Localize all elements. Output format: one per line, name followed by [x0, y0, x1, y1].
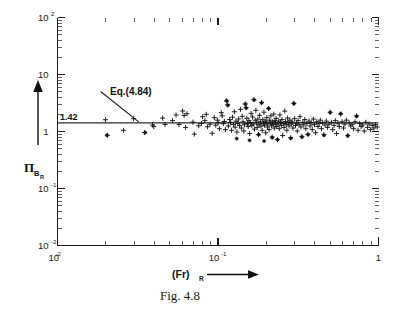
- axis-spines: [58, 18, 379, 246]
- data-point-plus: [160, 116, 165, 121]
- data-point-plus: [241, 129, 246, 134]
- data-point-star: [328, 110, 332, 114]
- x-tick-label-0-exponent: -2: [55, 250, 61, 257]
- y-axis-label-base: Π: [24, 160, 34, 175]
- data-point-plus: [205, 124, 210, 129]
- data-point-plus: [213, 123, 218, 128]
- data-point-plus: [229, 128, 234, 133]
- data-point-plus: [260, 128, 265, 133]
- y-tick-label-3: 10: [38, 183, 49, 194]
- data-point-plus: [221, 121, 226, 126]
- data-point-plus: [284, 128, 289, 133]
- data-point-star: [143, 130, 147, 134]
- figure-caption: Fig. 4.8: [160, 288, 200, 303]
- data-point-plus: [220, 113, 225, 118]
- x-axis-label-base: (Fr): [172, 268, 190, 280]
- tick-labels-group: 10210110-110-210-210-11: [38, 10, 381, 262]
- data-point-plus: [217, 126, 222, 131]
- data-point-plus: [204, 112, 209, 117]
- data-point-plus: [238, 107, 243, 112]
- data-point-star: [270, 136, 274, 140]
- data-point-plus: [223, 127, 228, 132]
- y-tick-label-1: 10: [38, 69, 49, 80]
- data-point-star: [257, 133, 261, 137]
- data-point-plus: [253, 108, 258, 113]
- x-tick-label-2: 1: [376, 252, 381, 263]
- data-point-plus: [356, 128, 361, 133]
- data-point-plus: [210, 131, 215, 136]
- data-point-plus: [174, 112, 179, 117]
- data-point-star: [252, 98, 256, 102]
- data-point-star: [262, 139, 266, 143]
- data-point-star: [235, 137, 239, 141]
- data-point-plus: [216, 120, 221, 125]
- data-point-star: [339, 112, 343, 116]
- data-point-plus: [234, 130, 239, 135]
- data-point-plus: [199, 121, 204, 126]
- data-point-plus: [103, 117, 108, 122]
- data-points-group: [103, 97, 380, 143]
- data-point-star: [322, 133, 326, 137]
- data-point-star: [300, 135, 304, 139]
- data-point-plus: [190, 120, 195, 125]
- data-point-star: [243, 102, 247, 106]
- data-point-plus: [215, 118, 220, 123]
- annotation-equation-label: Eq.(4.84): [110, 86, 152, 97]
- data-point-star: [289, 136, 293, 140]
- figure-container: 1.42 Eq.(4.84) 10210110-110-210-210-11 Π…: [0, 0, 410, 311]
- data-point-star: [226, 103, 230, 107]
- data-point-plus: [313, 130, 318, 135]
- data-point-plus: [227, 117, 232, 122]
- data-point-star: [275, 138, 279, 142]
- x-axis-title: (Fr) R: [172, 268, 259, 282]
- tick-marks-group: [58, 18, 379, 246]
- y-tick-label-0: 10: [38, 12, 49, 23]
- data-point-star: [355, 114, 359, 118]
- data-point-plus: [212, 115, 217, 120]
- data-point-plus: [230, 115, 235, 120]
- y-tick-label-0-exponent: 2: [51, 10, 55, 17]
- x-tick-label-1-exponent: -1: [221, 250, 227, 257]
- data-point-plus: [325, 125, 330, 130]
- data-point-plus: [282, 109, 287, 114]
- data-point-star: [225, 99, 229, 103]
- data-point-plus: [334, 131, 339, 136]
- data-point-star: [306, 133, 310, 137]
- data-point-star: [105, 133, 109, 137]
- data-point-plus: [274, 116, 279, 121]
- data-point-plus: [192, 132, 197, 137]
- data-point-star: [292, 102, 296, 106]
- data-point-plus: [261, 110, 266, 115]
- x-axis-arrow-icon: [248, 270, 259, 279]
- data-point-star: [346, 134, 350, 138]
- data-point-plus: [180, 108, 185, 113]
- data-point-plus: [219, 110, 224, 115]
- y-tick-label-4: 10: [38, 240, 49, 251]
- data-point-star: [244, 106, 248, 110]
- data-point-star: [260, 101, 264, 105]
- x-tick-label-1: 10: [209, 252, 220, 263]
- axes-group: [58, 18, 379, 246]
- data-point-plus: [353, 119, 358, 124]
- data-point-plus: [196, 123, 201, 128]
- y-tick-label-2: 1: [43, 126, 48, 137]
- y-tick-label-4-exponent: -2: [51, 238, 57, 245]
- data-point-plus: [295, 129, 300, 134]
- data-point-plus: [263, 130, 268, 135]
- data-point-plus: [280, 133, 285, 138]
- data-point-plus: [277, 112, 282, 117]
- reference-line-value-label: 1.42: [60, 112, 78, 122]
- x-axis-label-subscript: R: [199, 275, 204, 282]
- data-point-plus: [232, 109, 237, 114]
- y-axis-arrow-icon: [33, 80, 43, 92]
- annotation-group: Eq.(4.84): [101, 86, 152, 122]
- y-tick-label-3-exponent: -1: [51, 181, 57, 188]
- data-point-plus: [121, 128, 126, 133]
- y-axis-title: Π B R: [24, 80, 44, 180]
- y-axis-label-subsubscript: R: [40, 174, 44, 180]
- chart-canvas: 1.42 Eq.(4.84) 10210110-110-210-210-11 Π…: [0, 0, 410, 311]
- data-point-plus: [240, 114, 245, 119]
- data-point-plus: [183, 125, 188, 130]
- data-point-star: [267, 106, 271, 110]
- data-point-plus: [247, 131, 252, 136]
